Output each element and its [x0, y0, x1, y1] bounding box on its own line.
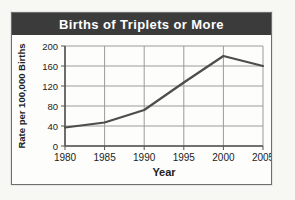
- line-chart: 04080120160200198019851990199520002005Ye…: [12, 35, 271, 184]
- y-tick-label: 200: [42, 41, 58, 52]
- x-tick-label: 2005: [252, 152, 271, 163]
- x-tick-label: 1985: [93, 152, 116, 163]
- x-axis-title: Year: [152, 166, 176, 178]
- x-tick-label: 2000: [212, 152, 235, 163]
- x-tick-label: 1980: [54, 152, 77, 163]
- y-tick-label: 160: [42, 61, 58, 72]
- y-axis-title: Rate per 100,000 Births: [16, 43, 27, 148]
- chart-card: Births of Triplets or More 0408012016020…: [11, 12, 272, 185]
- y-tick-label: 0: [53, 141, 58, 152]
- y-tick-label: 80: [47, 101, 58, 112]
- y-tick-label: 40: [47, 121, 58, 132]
- chart-area: 04080120160200198019851990199520002005Ye…: [12, 35, 271, 184]
- triplet-rate-series: [65, 56, 263, 128]
- x-tick-label: 1995: [173, 152, 196, 163]
- y-tick-label: 120: [42, 81, 58, 92]
- page-background: Births of Triplets or More 0408012016020…: [0, 0, 295, 200]
- x-tick-label: 1990: [133, 152, 156, 163]
- chart-title: Births of Triplets or More: [59, 17, 224, 32]
- chart-title-bar: Births of Triplets or More: [12, 13, 271, 35]
